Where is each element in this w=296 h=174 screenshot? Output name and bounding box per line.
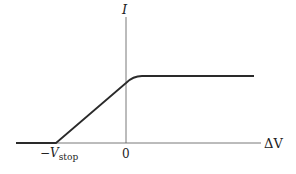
vstop-tick-label: −Vstop <box>40 147 78 162</box>
y-axis-label: I <box>122 3 127 16</box>
x-axis-label: ΔV <box>264 137 283 150</box>
x-axis-label-text: ΔV <box>264 136 283 151</box>
origin-tick-label: 0 <box>122 148 130 160</box>
vstop-subscript: stop <box>59 152 78 162</box>
vstop-prefix: −V <box>40 146 59 160</box>
iv-curve <box>16 76 254 143</box>
